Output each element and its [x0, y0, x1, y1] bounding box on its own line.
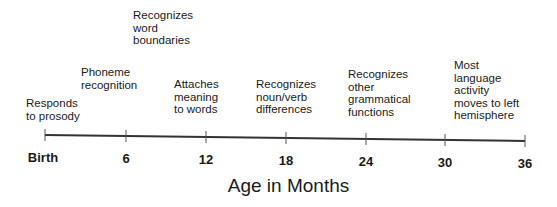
- tick-label: 30: [438, 155, 452, 170]
- tick-label: 6: [122, 151, 129, 166]
- milestone-label: Attaches meaning to words: [174, 78, 219, 116]
- tick-label: 36: [518, 156, 532, 171]
- milestone-label: Responds to prosody: [26, 97, 80, 122]
- milestone-label: Recognizes word boundaries: [133, 9, 193, 47]
- tick-label: 18: [279, 153, 293, 168]
- axis-title: Age in Months: [0, 175, 557, 197]
- milestone-label: Recognizes other grammatical functions: [348, 68, 411, 118]
- tick-label: 24: [359, 154, 373, 169]
- milestone-label: Phoneme recognition: [81, 66, 137, 91]
- timeline-line: [45, 135, 525, 141]
- tick-label: Birth: [28, 150, 58, 165]
- milestone-label: Most language activity moves to left hem…: [454, 59, 519, 122]
- milestone-label: Recognizes noun/verb differences: [256, 78, 316, 116]
- tick-label: 12: [199, 152, 213, 167]
